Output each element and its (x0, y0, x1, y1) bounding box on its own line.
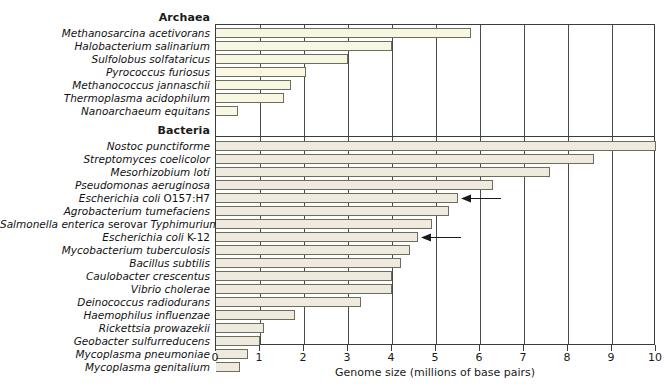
x-tick-label-10: 10 (640, 351, 670, 364)
x-tick-label-7: 7 (508, 351, 538, 364)
bar-row-label: Nanoarchaeum equitans (0, 105, 210, 118)
bar (216, 54, 348, 64)
bar-row: Deinococcus radiodurans (0, 296, 672, 309)
bar (216, 167, 550, 177)
bar (216, 245, 410, 255)
bar-row: Sulfolobus solfataricus (0, 53, 672, 66)
bar-row: Agrobacterium tumefaciens (0, 205, 672, 218)
bar (216, 193, 458, 203)
bar-row-label: Salmonella enterica serovar Typhimurium (0, 218, 210, 231)
bar (216, 154, 594, 164)
bar-row-label: Haemophilus influenzae (0, 309, 210, 322)
bar-row-label: Thermoplasma acidophilum (0, 92, 210, 105)
bar-row: Halobacterium salinarium (0, 40, 672, 53)
bar (216, 297, 361, 307)
bar-row-label: Caulobacter crescentus (0, 270, 210, 283)
bar-row-label: Bacillus subtilis (0, 257, 210, 270)
bar (216, 310, 295, 320)
bar-row: Nanoarchaeum equitans (0, 105, 672, 118)
bar-row-label: Rickettsia prowazekii (0, 322, 210, 335)
bar-row-label: Halobacterium salinarium (0, 40, 210, 53)
bar (216, 106, 238, 116)
bar-row: Escherichia coli K-12 (0, 231, 672, 244)
bar-row-label: Mycoplasma pneumoniae (0, 348, 210, 361)
bar (216, 206, 449, 216)
bar (216, 80, 291, 90)
bar-row: Methanosarcina acetivorans (0, 27, 672, 40)
x-tick-label-3: 3 (332, 351, 362, 364)
bar-row-label: Escherichia coli O157:H7 (0, 192, 210, 205)
bar (216, 180, 493, 190)
bar (216, 141, 656, 151)
bar-row-label: Vibrio cholerae (0, 283, 210, 296)
bar-row: Salmonella enterica serovar Typhimurium (0, 218, 672, 231)
bar-row-label: Streptomyces coelicolor (0, 153, 210, 166)
bar-row: Bacillus subtilis (0, 257, 672, 270)
bar (216, 28, 471, 38)
x-tick-label-8: 8 (552, 351, 582, 364)
x-tick-label-2: 2 (288, 351, 318, 364)
bar-row-label: Mycobacterium tuberculosis (0, 244, 210, 257)
group-separator-line (216, 136, 654, 137)
bar-row: Rickettsia prowazekii (0, 322, 672, 335)
bar (216, 219, 432, 229)
bar-row: Mycobacterium tuberculosis (0, 244, 672, 257)
bar-row: Methanococcus jannaschii (0, 79, 672, 92)
x-tick-label-4: 4 (376, 351, 406, 364)
bar (216, 93, 284, 103)
bar (216, 41, 392, 51)
bar-row: Haemophilus influenzae (0, 309, 672, 322)
bar-row-label: Mesorhizobium loti (0, 166, 210, 179)
x-tick-label-6: 6 (464, 351, 494, 364)
bar-row: Nostoc punctiforme (0, 140, 672, 153)
bar (216, 284, 392, 294)
bar-row-label: Methanosarcina acetivorans (0, 27, 210, 40)
bar-row: Escherichia coli O157:H7 (0, 192, 672, 205)
group-heading-bacteria: Bacteria (0, 124, 210, 137)
x-axis-title: Genome size (millions of base pairs) (215, 366, 655, 379)
bar-row-label: Deinococcus radiodurans (0, 296, 210, 309)
bar-row-label: Nostoc punctiforme (0, 140, 210, 153)
x-tick-label-0: 0 (200, 351, 230, 364)
x-tick-label-1: 1 (244, 351, 274, 364)
bar-row-label: Geobacter sulfurreducens (0, 335, 210, 348)
bar-row-label: Escherichia coli K-12 (0, 231, 210, 244)
bar-row: Streptomyces coelicolor (0, 153, 672, 166)
bar-row-label: Pseudomonas aeruginosa (0, 179, 210, 192)
bar-row: Thermoplasma acidophilum (0, 92, 672, 105)
bar (216, 232, 418, 242)
bar (216, 67, 306, 77)
bar-row: Caulobacter crescentus (0, 270, 672, 283)
x-tick-label-5: 5 (420, 351, 450, 364)
bar (216, 258, 401, 268)
genome-size-bar-chart: Archaea Bacteria Methanosarcina acetivor… (0, 0, 672, 388)
bar-row-label: Mycoplasma genitalium (0, 361, 210, 374)
bar-row-label: Methanococcus jannaschii (0, 79, 210, 92)
bar-row-label: Sulfolobus solfataricus (0, 53, 210, 66)
group-heading-archaea: Archaea (0, 11, 210, 24)
bar-row: Pseudomonas aeruginosa (0, 179, 672, 192)
bar-row-label: Pyrococcus furiosus (0, 66, 210, 79)
bar (216, 271, 392, 281)
bar-row: Pyrococcus furiosus (0, 66, 672, 79)
bar (216, 323, 264, 333)
x-tick-label-9: 9 (596, 351, 626, 364)
bar-row-label: Agrobacterium tumefaciens (0, 205, 210, 218)
bar-row: Vibrio cholerae (0, 283, 672, 296)
bar-row: Mesorhizobium loti (0, 166, 672, 179)
x-axis: 012345678910 (215, 345, 655, 351)
